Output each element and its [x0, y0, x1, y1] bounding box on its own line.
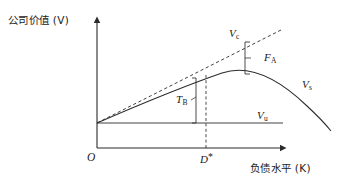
optimal-debt-label: D* [200, 152, 213, 165]
unlevered-value-subscript: u [264, 114, 268, 123]
tax-shield-bracket-pointer [191, 97, 196, 100]
mm-tax-line-subscript: c [236, 32, 240, 41]
firm-value-curve-subscript: s [309, 83, 312, 92]
mm-tax-tangent-line [97, 30, 281, 123]
origin-label: O [87, 152, 95, 164]
x-axis-title: 负债水平 (K) [250, 163, 311, 174]
mm-tax-line-letter: V [229, 27, 236, 39]
unlevered-value-label: Vu [257, 110, 268, 122]
firm-value-curve-label: Vs [302, 79, 312, 91]
firm-value-curve [97, 70, 331, 131]
distress-cost-label: FA [264, 52, 276, 64]
distress-cost-subscript: A [271, 56, 277, 65]
diagram-canvas [0, 0, 347, 182]
optimal-debt-star: * [208, 151, 213, 162]
mm-tax-line-label: Vc [229, 28, 239, 40]
tax-shield-label: TB [176, 94, 187, 106]
distress-cost-letter: F [264, 51, 271, 63]
tax-shield-subscript: B [182, 98, 187, 107]
y-axis-title: 公司价值 (V) [8, 15, 69, 26]
firm-value-tradeoff-figure: 公司价值 (V) 负债水平 (K) O D* Vc FA Vs TB Vu [0, 0, 347, 182]
unlevered-value-letter: V [257, 109, 264, 121]
firm-value-curve-letter: V [302, 78, 309, 90]
optimal-debt-letter: D [200, 153, 208, 165]
